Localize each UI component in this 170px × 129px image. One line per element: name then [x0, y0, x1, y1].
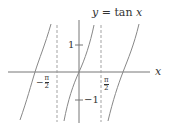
title-y: y [92, 6, 98, 19]
function-title: y = tan x [92, 7, 142, 18]
neg-sign: − [36, 78, 44, 87]
fraction-pi-over-2: π 2 [45, 75, 50, 90]
x-tick-label-neg-pi-half: − π 2 [36, 75, 49, 90]
denominator-2: 2 [104, 85, 108, 92]
y-tick-label-1: 1 [68, 40, 74, 50]
x-tick-label-pi-half: π 2 [104, 75, 109, 92]
fraction-pi-over-2: π 2 [104, 77, 109, 92]
numerator-pi: π [104, 77, 109, 84]
x-axis-label: x [155, 66, 161, 77]
tan-plot [0, 0, 170, 129]
title-eq: = [102, 6, 111, 19]
y-tick-label-neg-1: −1 [84, 95, 99, 105]
title-fn: tan [114, 6, 132, 19]
denominator-2: 2 [45, 83, 49, 90]
title-x: x [136, 6, 142, 19]
numerator-pi: π [45, 75, 50, 82]
